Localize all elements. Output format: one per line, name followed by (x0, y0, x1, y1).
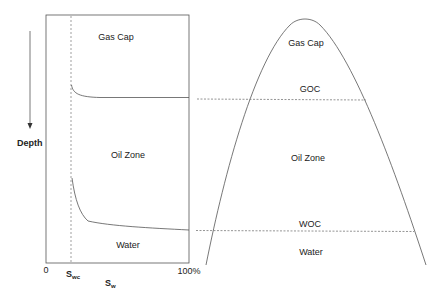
woc-label: WOC (299, 219, 321, 229)
swc-label-sub: wc (71, 274, 81, 280)
x-axis-origin-label: 0 (43, 265, 48, 275)
left-water-label: Water (116, 240, 140, 250)
woc-contact-line (196, 231, 414, 232)
oil-water-saturation-curve (72, 178, 189, 230)
saturation-plot-frame (46, 15, 189, 263)
left-gas-cap-label: Gas Cap (98, 32, 134, 42)
right-oil-zone-label: Oil Zone (291, 153, 325, 163)
right-water-label: Water (299, 247, 323, 257)
depth-arrow (28, 31, 33, 129)
goc-contact-line (197, 99, 366, 100)
right-gas-cap-label: Gas Cap (288, 38, 324, 48)
gas-oil-saturation-curve (72, 85, 190, 98)
left-oil-zone-label: Oil Zone (111, 150, 145, 160)
swc-label: Swc (66, 269, 81, 280)
x-axis-max-label: 100% (177, 266, 200, 276)
sw-axis-title: Sw (105, 278, 116, 289)
goc-label: GOC (300, 84, 321, 94)
reservoir-diagram: Depth Gas Cap Oil Zone Water 0 Swc 100% … (0, 0, 445, 299)
depth-label: Depth (17, 138, 43, 148)
sw-axis-title-sub: w (110, 283, 116, 289)
